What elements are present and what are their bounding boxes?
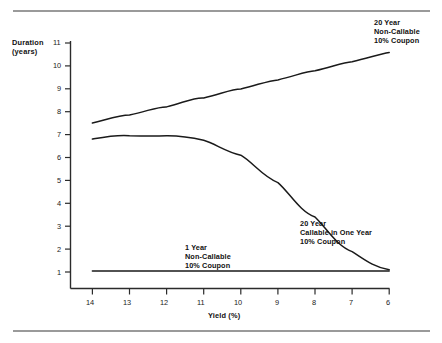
- x-tick-label: 11: [197, 298, 205, 307]
- y-tick-label: 7: [57, 130, 61, 139]
- curve-20yr-non-callable: [92, 53, 389, 123]
- annotation-20yr-callable: 20 Year Callable in One Year 10% Coupon: [300, 219, 372, 247]
- y-tick-label: 1: [57, 268, 61, 277]
- y-axis-ticks: [65, 43, 71, 272]
- x-tick-label: 7: [349, 298, 353, 307]
- x-tick-label: 10: [234, 298, 242, 307]
- y-tick-label: 5: [57, 176, 61, 185]
- annotation-line3: 10% Coupon: [300, 237, 372, 246]
- duration-yield-figure: Duration (years) 1 2 3 4 5 6 7 8 9 10 11…: [0, 0, 442, 343]
- y-tick-label: 3: [57, 222, 61, 231]
- y-tick-label: 9: [57, 84, 61, 93]
- y-tick-label: 4: [57, 199, 61, 208]
- annotation-1yr-non-callable: 1 Year Non-Callable 10% Coupon: [185, 243, 231, 271]
- y-tick-label: 11: [53, 38, 61, 47]
- annotation-line2: Non-Callable: [374, 27, 420, 36]
- y-axis-title-line2: (years): [12, 47, 44, 56]
- x-tick-label: 13: [123, 298, 131, 307]
- y-tick-label: 2: [57, 245, 61, 254]
- x-tick-label: 12: [160, 298, 168, 307]
- annotation-20yr-non-callable: 20 Year Non-Callable 10% Coupon: [374, 18, 420, 46]
- annotation-line3: 10% Coupon: [374, 36, 420, 45]
- annotation-line1: 1 Year: [185, 243, 231, 252]
- x-tick-label: 9: [275, 298, 279, 307]
- annotation-line3: 10% Coupon: [185, 261, 231, 270]
- annotation-line1: 20 Year: [374, 18, 420, 27]
- y-tick-label: 6: [57, 153, 61, 162]
- chart-plot-area: [0, 0, 442, 343]
- annotation-line2: Callable in One Year: [300, 228, 372, 237]
- x-tick-label: 6: [386, 298, 390, 307]
- annotation-line1: 20 Year: [300, 219, 372, 228]
- y-tick-label: 10: [53, 61, 61, 70]
- annotation-line2: Non-Callable: [185, 252, 231, 261]
- y-tick-label: 8: [57, 107, 61, 116]
- x-axis-ticks: [92, 289, 389, 295]
- curve-20yr-callable-one-year: [92, 135, 389, 269]
- y-axis-title: Duration (years): [12, 38, 44, 56]
- y-axis-title-line1: Duration: [12, 38, 44, 47]
- x-tick-label: 14: [86, 298, 94, 307]
- x-axis-title: Yield (%): [208, 311, 240, 320]
- x-tick-label: 8: [312, 298, 316, 307]
